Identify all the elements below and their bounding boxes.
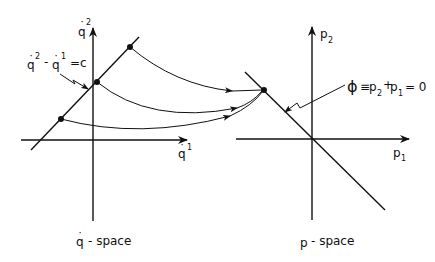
constraint-q2-sup: 2 <box>35 52 40 61</box>
q2-axis-label: q <box>78 25 86 39</box>
mapping-arrow-1 <box>130 47 232 91</box>
p-space-panel: p 2 p 1 ϕ ≡ p 2 + p 1 = 0 p - space <box>236 27 427 250</box>
constraint-eq-zero: = 0 <box>405 80 427 94</box>
p1-axis-subscript: 1 <box>401 154 406 163</box>
mapping-arrow-3 <box>61 116 230 129</box>
constraint-q1-dot: · <box>55 50 58 61</box>
q-space-panel: q · 2 q · 1 q · 2 - q · 1 =c q · - space <box>21 16 192 249</box>
q1-dot: · <box>181 139 184 150</box>
q-space-caption-dot: · <box>79 227 82 238</box>
p1-axis-label: p <box>393 146 401 160</box>
constraint-p2: p <box>369 80 377 94</box>
constraint-p1-sub: 1 <box>398 89 403 98</box>
mapping-arrow-2 <box>97 82 237 113</box>
mapping-arrow-1-tail <box>232 90 262 91</box>
constraint-p2-sub: 2 <box>377 89 382 98</box>
q2-dot: · <box>81 16 84 27</box>
q2-axis-superscript: 2 <box>86 18 91 27</box>
p-space-caption-symbol: p <box>300 236 308 250</box>
constraint-q1-sup: 1 <box>61 52 66 61</box>
constraint-eq-c: =c <box>70 56 87 70</box>
target-point <box>261 87 267 93</box>
p2-axis-subscript: 2 <box>328 36 333 45</box>
q-constraint-pointer <box>60 74 88 89</box>
p-space-caption-text: - space <box>311 234 354 248</box>
constraint-minus: - <box>44 55 48 69</box>
q1-axis-superscript: 1 <box>187 143 192 152</box>
mapping-arrow-2-tail <box>237 91 262 108</box>
p-constraint-pointer <box>285 85 345 112</box>
p2-axis-label: p <box>320 27 328 41</box>
constraint-line-q <box>31 37 139 150</box>
constraint-p1: p <box>390 80 398 94</box>
q-space-caption-text: - space <box>88 234 131 248</box>
constraint-q2-dot: · <box>30 50 33 61</box>
diagram-canvas: q · 2 q · 1 q · 2 - q · 1 =c q · - space <box>0 0 435 262</box>
p-constraint-label: ϕ ≡ p 2 + p 1 = 0 <box>347 77 427 98</box>
q-constraint-label: q · 2 - q · 1 =c <box>27 50 87 72</box>
constraint-phi: ϕ <box>347 77 358 96</box>
